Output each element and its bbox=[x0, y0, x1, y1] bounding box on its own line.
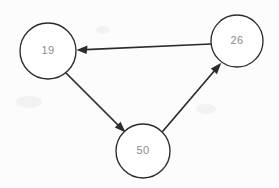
node-26-label: 26 bbox=[230, 34, 243, 46]
edge-26-to-19[interactable] bbox=[77, 44, 212, 54]
node-19[interactable]: 19 bbox=[20, 23, 76, 79]
edge-50-to-26[interactable] bbox=[163, 63, 221, 131]
directed-graph: 19 26 50 bbox=[0, 0, 279, 188]
edge-26-to-19-line bbox=[80, 44, 211, 50]
edge-50-to-26-line bbox=[163, 66, 219, 131]
diagram-canvas: 19 26 50 bbox=[0, 0, 279, 188]
edge-19-to-50-line bbox=[66, 73, 123, 130]
edge-group bbox=[66, 44, 221, 133]
node-19-label: 19 bbox=[41, 44, 54, 56]
node-50-label: 50 bbox=[136, 144, 149, 156]
node-50[interactable]: 50 bbox=[116, 124, 170, 178]
node-group: 19 26 50 bbox=[20, 15, 263, 178]
node-26[interactable]: 26 bbox=[211, 15, 263, 67]
edge-26-to-19-arrowhead bbox=[77, 46, 88, 54]
edge-19-to-50[interactable] bbox=[66, 73, 126, 133]
